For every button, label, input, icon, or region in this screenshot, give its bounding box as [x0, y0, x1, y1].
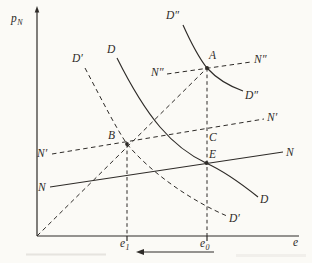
y-axis-arrowhead-icon: [35, 6, 40, 13]
point-a-dot: [205, 66, 209, 70]
d-double-prime-label-top: D″: [165, 9, 179, 21]
d-prime-label-end: D′: [228, 212, 240, 224]
d-prime-label-top: D′: [71, 52, 83, 64]
n-curve: [50, 152, 283, 187]
diagram-canvas: pN e e1 e0 D D D′ D′ D″ D″ N N N′ N′ N″ …: [0, 0, 312, 263]
n-label-right: N: [285, 146, 295, 158]
n-label-left: N: [37, 181, 47, 193]
d-curve: [117, 58, 258, 197]
n-prime-label-left: N′: [36, 147, 48, 159]
n-prime-label-right: N′: [266, 111, 278, 123]
y-axis-label: pN: [10, 12, 23, 27]
y-axis-letter: p: [10, 12, 17, 25]
point-a-label: A: [208, 49, 217, 61]
tick-label-e1: e1: [120, 237, 130, 252]
y-axis-subscript: N: [16, 18, 23, 27]
point-c-label: C: [209, 131, 217, 143]
scan-smudge: [26, 254, 106, 256]
d-curve-label-end: D: [259, 193, 269, 205]
d-prime-curve: [85, 68, 227, 216]
e0-letter: e: [200, 237, 205, 249]
tick-label-e0: e0: [200, 237, 210, 252]
n-double-prime-label-right: N″: [253, 53, 267, 65]
n-double-prime-label-left: N″: [150, 66, 164, 78]
point-b-dot: [125, 142, 129, 146]
scan-smudge: [236, 254, 306, 257]
d-double-prime-label-end: D″: [244, 89, 258, 101]
d-curve-label-top: D: [106, 43, 116, 55]
point-e-label: E: [208, 148, 216, 160]
economics-diagram: pN e e1 e0 D D D′ D′ D″ D″ N N N′ N′ N″ …: [0, 0, 312, 263]
e1-letter: e: [120, 237, 125, 249]
x-axis-label: e: [293, 236, 298, 248]
e0-subscript: 0: [206, 243, 210, 252]
left-arrowhead-icon: [136, 249, 144, 255]
e1-subscript: 1: [126, 243, 130, 252]
point-b-label: B: [108, 129, 115, 141]
point-e-dot: [205, 161, 209, 165]
